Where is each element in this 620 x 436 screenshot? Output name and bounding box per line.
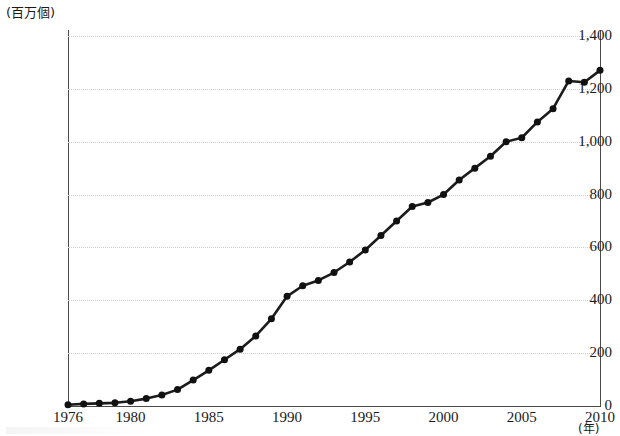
data-point <box>268 315 275 322</box>
data-point <box>299 282 306 289</box>
data-point <box>252 332 259 339</box>
data-point <box>597 67 604 74</box>
series-marker-group <box>65 67 604 408</box>
data-point <box>362 247 369 254</box>
data-point <box>424 199 431 206</box>
data-point <box>331 269 338 276</box>
data-point <box>346 258 353 265</box>
series-line <box>68 70 600 404</box>
data-point <box>143 395 150 402</box>
data-point <box>581 79 588 86</box>
data-point <box>127 398 134 405</box>
data-point <box>377 232 384 239</box>
data-point <box>237 346 244 353</box>
data-point <box>158 391 165 398</box>
data-point <box>205 367 212 374</box>
data-point <box>440 191 447 198</box>
data-point <box>456 177 463 184</box>
data-point <box>111 399 118 406</box>
data-point <box>550 105 557 112</box>
x-axis-unit-label: (年) <box>578 419 599 436</box>
data-point <box>471 165 478 172</box>
data-point <box>221 356 228 363</box>
data-point <box>393 218 400 225</box>
data-point <box>315 277 322 284</box>
data-point <box>534 118 541 125</box>
data-point <box>80 400 87 407</box>
data-point <box>518 134 525 141</box>
data-point <box>503 138 510 145</box>
data-point <box>487 153 494 160</box>
data-point <box>174 386 181 393</box>
data-point <box>284 293 291 300</box>
data-point <box>409 203 416 210</box>
data-point <box>190 377 197 384</box>
data-point <box>96 400 103 407</box>
data-point <box>65 401 72 408</box>
data-point <box>565 77 572 84</box>
page-footer-artifact <box>6 427 156 434</box>
